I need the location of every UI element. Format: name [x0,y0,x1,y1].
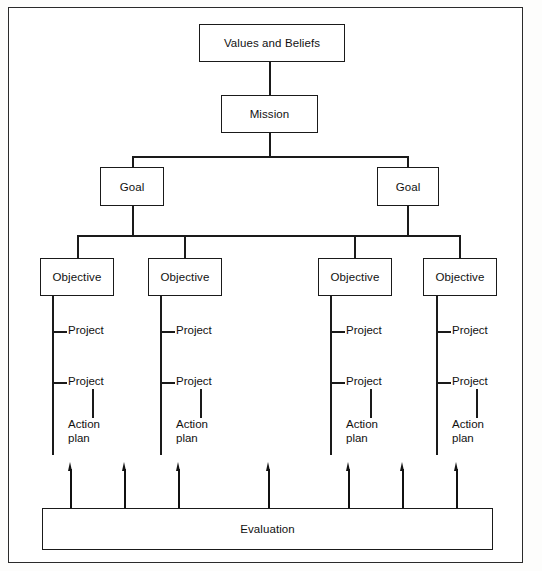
connector-mission-drop [269,133,271,157]
stub-objective-1-project-1 [52,331,67,333]
action-plan-line-1: Action [346,418,378,430]
connector-goal-bus [132,156,408,158]
action-plan-line-2: plan [176,432,198,444]
label-objective-4-action-plan[interactable]: Action plan [452,418,484,445]
arrow-shaft [268,469,270,509]
arrow-shaft [402,469,404,509]
connector-objective-2-drop [184,235,186,258]
label-objective-1-project-1[interactable]: Project [68,324,104,337]
action-plan-line-2: plan [68,432,90,444]
stub-objective-4-project-1 [436,331,451,333]
stub-objective-2-project-1 [160,331,175,333]
action-plan-line-2: plan [452,432,474,444]
arrow-shaft [70,469,72,509]
arrow-shaft [178,469,180,509]
label-objective-3-project-1[interactable]: Project [346,324,382,337]
connector-objective-2-action-plan [200,389,202,418]
evaluation-feedback-arrow-4 [266,462,272,509]
node-goal-2[interactable]: Goal [377,167,439,206]
arrow-shaft [456,469,458,509]
label-objective-2-action-plan[interactable]: Action plan [176,418,208,445]
evaluation-feedback-arrow-3 [176,462,182,509]
stub-objective-3-project-2 [330,382,345,384]
stub-objective-2-project-2 [160,382,175,384]
connector-objective-1-drop [77,235,79,258]
evaluation-feedback-arrow-1 [68,462,74,509]
trunk-objective-4 [436,296,438,455]
node-objective-2[interactable]: Objective [148,258,222,296]
connector-objective-3-drop [354,235,356,258]
trunk-objective-1 [52,296,54,455]
evaluation-feedback-arrow-2 [122,462,128,509]
diagram-canvas: Values and Beliefs Mission Goal Goal Obj… [0,0,542,571]
trunk-objective-3 [330,296,332,455]
connector-objective-1-action-plan [92,389,94,418]
connector-goal-left-drop [132,156,134,167]
label-objective-1-project-2[interactable]: Project [68,375,104,388]
action-plan-line-2: plan [346,432,368,444]
label-objective-1-action-plan[interactable]: Action plan [68,418,100,445]
stub-objective-3-project-1 [330,331,345,333]
connector-objective-bus [77,235,460,237]
label-objective-4-project-2[interactable]: Project [452,375,488,388]
connector-objective-4-action-plan [476,389,478,418]
label-objective-3-action-plan[interactable]: Action plan [346,418,378,445]
trunk-objective-2 [160,296,162,455]
evaluation-feedback-arrow-5 [346,462,352,509]
connector-goal1-drop [132,206,134,236]
stub-objective-4-project-2 [436,382,451,384]
arrow-shaft [124,469,126,509]
connector-goal-right-drop [407,156,409,167]
node-objective-3[interactable]: Objective [318,258,392,296]
label-objective-3-project-2[interactable]: Project [346,375,382,388]
stub-objective-1-project-2 [52,382,67,384]
connector-goal2-drop [407,206,409,236]
label-objective-2-project-2[interactable]: Project [176,375,212,388]
action-plan-line-1: Action [176,418,208,430]
evaluation-feedback-arrow-6 [400,462,406,509]
action-plan-line-1: Action [452,418,484,430]
connector-objective-3-action-plan [370,389,372,418]
node-values-and-beliefs[interactable]: Values and Beliefs [199,24,345,62]
action-plan-line-1: Action [68,418,100,430]
label-objective-2-project-1[interactable]: Project [176,324,212,337]
evaluation-feedback-arrow-7 [454,462,460,509]
node-objective-1[interactable]: Objective [40,258,114,296]
arrow-shaft [348,469,350,509]
label-objective-4-project-1[interactable]: Project [452,324,488,337]
node-goal-1[interactable]: Goal [100,167,164,206]
connector-objective-4-drop [459,235,461,258]
connector-root-to-mission [269,62,271,95]
node-mission[interactable]: Mission [221,95,318,133]
node-evaluation[interactable]: Evaluation [42,508,493,550]
node-objective-4[interactable]: Objective [423,258,497,296]
